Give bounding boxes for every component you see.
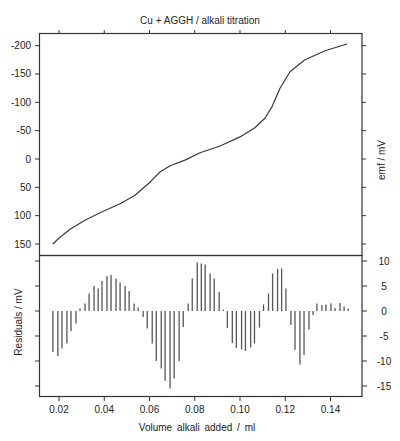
x-tick-label: 0.12 — [276, 404, 296, 415]
emf-tick-label: -100 — [11, 97, 31, 108]
emf-tick-label: 0 — [25, 154, 31, 165]
residual-tick-label: -15 — [377, 381, 392, 392]
residuals-axis-label: Residuals / mV — [13, 288, 24, 356]
emf-tick-label: 150 — [14, 239, 31, 250]
emf-panel: -200-150-100-50050100150 emf / mV — [11, 30, 387, 250]
titration-chart: Cu + AGGH / alkali titration -200-150-10… — [0, 0, 400, 441]
emf-curve — [53, 44, 347, 244]
x-axis-label: Volume alkali added / ml — [139, 422, 255, 433]
residual-tick-label: 5 — [381, 281, 387, 292]
emf-tick-label: 100 — [14, 210, 31, 221]
residual-tick-label: -5 — [380, 331, 389, 342]
x-tick-label: 0.10 — [230, 404, 250, 415]
x-tick-label: 0.04 — [95, 404, 115, 415]
emf-axis-label: emf / mV — [376, 140, 387, 180]
x-tick-label: 0.08 — [185, 404, 205, 415]
residual-y-axis-ticks: 1050-5-10-15 — [362, 256, 392, 392]
emf-plot-frame — [40, 34, 363, 256]
emf-tick-label: -200 — [11, 40, 31, 51]
residual-tick-label: 10 — [378, 256, 390, 267]
x-tick-label: 0.14 — [321, 404, 341, 415]
residuals-panel: 1050-5-10-15 Residuals / mV — [13, 256, 392, 392]
emf-tick-label: 50 — [20, 182, 32, 193]
x-axis-ticks: 0.020.040.060.080.100.120.14 — [49, 396, 340, 415]
x-tick-label: 0.02 — [49, 404, 69, 415]
emf-y-axis-ticks: -200-150-100-50050100150 — [11, 40, 40, 249]
x-tick-label: 0.06 — [140, 404, 160, 415]
residual-tick-label: -10 — [377, 356, 392, 367]
residual-bars — [53, 263, 348, 389]
chart-title: Cu + AGGH / alkali titration — [140, 15, 260, 26]
emf-tick-label: -150 — [11, 68, 31, 79]
emf-tick-label: -50 — [17, 125, 32, 136]
residual-tick-label: 0 — [381, 306, 387, 317]
